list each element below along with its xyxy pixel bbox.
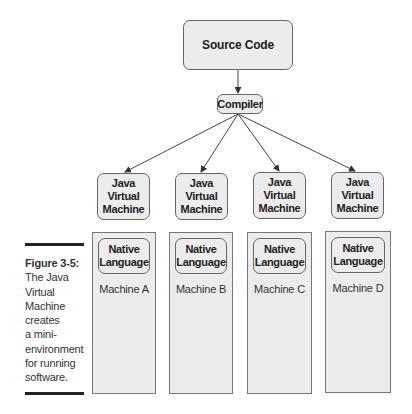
- caption-line: creates: [25, 314, 60, 326]
- machine-label: Machine B: [170, 283, 232, 295]
- native-label-line: Language: [255, 256, 305, 268]
- jvm-label-line: Virtual: [108, 190, 140, 202]
- native-label-line: Language: [176, 256, 226, 268]
- machine-label: Machine C: [248, 283, 311, 295]
- machine-label: Machine A: [93, 283, 155, 295]
- jvm-label-line: Java: [268, 176, 291, 188]
- machine-box-c: NativeLanguage Machine C: [247, 232, 312, 394]
- figure-caption: Figure 3-5: The Java Virtual Machine cre…: [25, 256, 87, 385]
- native-language-box: NativeLanguage: [331, 237, 385, 273]
- native-label-line: Language: [333, 255, 383, 267]
- native-language-box: NativeLanguage: [253, 238, 306, 274]
- jvm-label-line: Machine: [259, 202, 301, 214]
- machine-box-d: NativeLanguage Machine D: [325, 231, 391, 393]
- native-language-box: NativeLanguage: [98, 238, 150, 274]
- jvm-label-line: Machine: [337, 202, 379, 214]
- caption-line: Virtual: [25, 286, 55, 298]
- machine-box-a: NativeLanguage Machine A: [92, 232, 156, 394]
- machine-box-b: NativeLanguage Machine B: [169, 232, 233, 394]
- native-label-line: Native: [185, 243, 216, 255]
- jvm-box-b: JavaVirtualMachine: [175, 173, 228, 220]
- jvm-label-line: Machine: [181, 203, 223, 215]
- arrow-compiler-to-jvm-d: [238, 114, 355, 171]
- native-label-line: Native: [264, 243, 295, 255]
- jvm-box-a: JavaVirtualMachine: [97, 173, 150, 220]
- caption-line: Machine: [25, 300, 65, 312]
- jvm-label-line: Java: [190, 177, 213, 189]
- jvm-label-line: Virtual: [264, 189, 296, 201]
- jvm-box-c: JavaVirtualMachine: [253, 172, 306, 219]
- arrow-compiler-to-jvm-b: [201, 114, 238, 172]
- caption-line: software.: [25, 371, 68, 383]
- jvm-label-line: Virtual: [342, 189, 374, 201]
- caption-line: The Java: [25, 271, 69, 283]
- native-label-line: Language: [99, 256, 149, 268]
- caption-line: for running: [25, 357, 75, 369]
- arrow-compiler-to-jvm-a: [125, 114, 238, 172]
- machine-label: Machine D: [326, 282, 390, 294]
- caption-top-rule: [25, 243, 84, 246]
- native-label-line: Native: [342, 242, 373, 254]
- source-code-box: Source Code: [183, 20, 293, 70]
- jvm-label-line: Java: [112, 177, 135, 189]
- arrow-compiler-to-jvm-c: [238, 114, 279, 171]
- caption-line: environment: [25, 343, 83, 355]
- figure-number: Figure 3-5:: [25, 256, 87, 270]
- caption-bottom-rule: [25, 392, 84, 395]
- jvm-label-line: Virtual: [186, 190, 218, 202]
- jvm-label-line: Java: [346, 176, 369, 188]
- jvm-box-d: JavaVirtualMachine: [331, 172, 384, 219]
- jvm-label-line: Machine: [103, 203, 145, 215]
- compiler-box: Compiler: [217, 94, 263, 114]
- native-language-box: NativeLanguage: [175, 238, 227, 274]
- native-label-line: Native: [108, 243, 139, 255]
- caption-line: a mini-: [25, 328, 57, 340]
